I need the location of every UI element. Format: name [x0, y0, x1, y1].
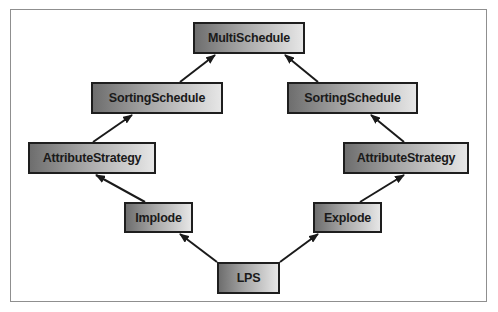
edge-implode-attr-left: [96, 175, 145, 202]
node-lps: LPS: [217, 262, 280, 294]
edge-explode-attr-right: [360, 175, 404, 202]
edge-sorting-right-multischedule: [285, 55, 318, 82]
edge-lps-explode: [280, 234, 318, 262]
edge-sorting-left-multischedule: [180, 55, 215, 82]
node-implode: Implode: [124, 202, 193, 233]
node-sorting-schedule-left: SortingSchedule: [91, 82, 223, 114]
node-attribute-strategy-left: AttributeStrategy: [28, 142, 156, 174]
edge-attr-left-sorting-left: [93, 115, 132, 142]
edge-attr-right-sorting-right: [371, 115, 404, 142]
node-sorting-schedule-right: SortingSchedule: [287, 82, 418, 114]
node-explode: Explode: [313, 202, 382, 233]
node-multischedule: MultiSchedule: [193, 22, 305, 54]
edge-lps-implode: [180, 234, 217, 262]
node-attribute-strategy-right: AttributeStrategy: [343, 142, 469, 174]
